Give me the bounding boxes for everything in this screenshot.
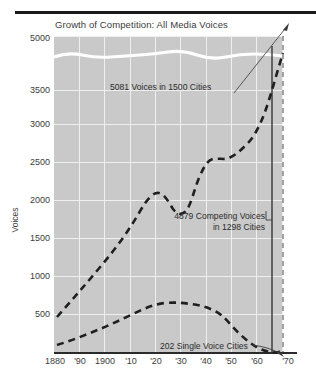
y-tick-label: 500 bbox=[4, 310, 50, 319]
leader-arrowhead-5081 bbox=[283, 23, 289, 31]
gridline-vertical bbox=[104, 36, 105, 352]
y-tick-label: 5000 bbox=[4, 34, 50, 43]
gridline-horizontal bbox=[54, 200, 283, 201]
gridline-horizontal bbox=[54, 314, 283, 315]
gridline-horizontal bbox=[54, 124, 283, 125]
annotation-4879-line2: in 1298 Cities bbox=[157, 222, 265, 233]
figure: Growth of Competition: All Media Voices … bbox=[0, 0, 316, 390]
top-rule bbox=[15, 11, 316, 14]
y-axis-labels: 5000 3500 3000 2500 2000 1500 1000 500 bbox=[0, 0, 50, 390]
gridline-vertical bbox=[79, 36, 80, 352]
chart-title: Growth of Competition: All Media Voices bbox=[55, 19, 228, 30]
annotation-4879-line1: 4879 Competing Voices bbox=[157, 211, 265, 222]
y-tick-label: 3000 bbox=[4, 120, 50, 129]
axis-break-wave bbox=[54, 36, 283, 66]
gridline-horizontal bbox=[54, 162, 283, 163]
annotation-5081: 5081 Voices in 1500 Cities bbox=[110, 82, 211, 93]
y-tick-label: 2500 bbox=[4, 158, 50, 167]
gridline-vertical bbox=[231, 36, 232, 352]
annotation-202: 202 Single Voice Cities bbox=[160, 341, 248, 352]
gridline-vertical bbox=[282, 36, 283, 352]
y-axis-title: Voices bbox=[10, 198, 20, 242]
y-tick-label: 3500 bbox=[4, 86, 50, 95]
gridline-horizontal bbox=[54, 276, 283, 277]
x-tick-label: '70 bbox=[268, 356, 308, 366]
gridline-horizontal bbox=[54, 238, 283, 239]
y-tick-label: 1000 bbox=[4, 272, 50, 281]
gridline-vertical bbox=[256, 36, 257, 352]
annotation-4879: 4879 Competing Voices in 1298 Cities bbox=[157, 211, 265, 233]
x-axis-line bbox=[54, 352, 297, 354]
